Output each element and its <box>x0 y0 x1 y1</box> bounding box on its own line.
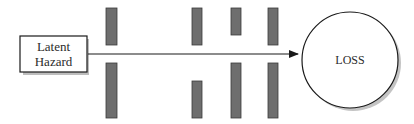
latent-hazard-node: Latent Hazard <box>20 36 89 75</box>
barrier-4-top <box>268 8 278 45</box>
loss-node: LOSS <box>302 12 401 111</box>
barrier-4-bottom <box>268 63 278 118</box>
barrier-3-top <box>231 8 241 35</box>
latent-hazard-label-line1: Latent <box>37 39 71 54</box>
barrier-2-top <box>192 8 202 45</box>
swiss-cheese-diagram: Latent Hazard LOSS <box>0 0 414 124</box>
barrier-2 <box>192 8 202 118</box>
barrier-3-bottom <box>231 63 241 118</box>
latent-hazard-label-line2: Hazard <box>35 54 73 69</box>
barrier-3 <box>231 8 241 118</box>
barrier-1-bottom <box>106 63 117 118</box>
loss-label: LOSS <box>335 53 364 67</box>
barrier-4 <box>268 8 278 118</box>
barrier-1-top <box>106 8 117 45</box>
barrier-2-bottom <box>192 81 202 118</box>
barrier-1 <box>106 8 117 118</box>
